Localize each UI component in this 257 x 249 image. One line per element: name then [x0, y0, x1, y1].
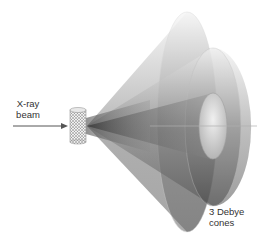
debye-cones-label-line1: 3 Debye — [209, 206, 244, 217]
xray-beam-arrow — [13, 123, 68, 129]
xray-beam-label-line1: X-ray — [12, 98, 44, 109]
xray-beam-label: X-ray beam — [12, 98, 44, 120]
debye-cones-label: 3 Debye cones — [209, 206, 244, 228]
debye-cones-label-line2: cones — [209, 217, 244, 228]
powder-sample-cylinder — [70, 108, 86, 145]
xray-beam-label-line2: beam — [12, 109, 44, 120]
